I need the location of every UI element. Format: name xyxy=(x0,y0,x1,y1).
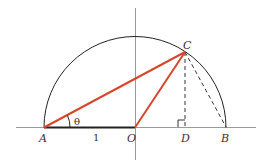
angle-theta-label: θ xyxy=(74,116,80,127)
point-D-label: D xyxy=(180,132,190,145)
segment-OC xyxy=(135,52,185,128)
point-B-label: B xyxy=(220,132,229,145)
point-C-label: C xyxy=(183,39,192,52)
semicircle-diagram: θ 1 A O D B C xyxy=(0,0,265,164)
segment-AC xyxy=(44,52,185,128)
point-A-label: A xyxy=(38,132,47,145)
right-angle-marker xyxy=(178,120,185,127)
segment-length-label: 1 xyxy=(93,132,99,143)
angle-theta-arc xyxy=(68,116,71,128)
point-O-label: O xyxy=(127,132,136,145)
segment-CB xyxy=(185,52,226,127)
